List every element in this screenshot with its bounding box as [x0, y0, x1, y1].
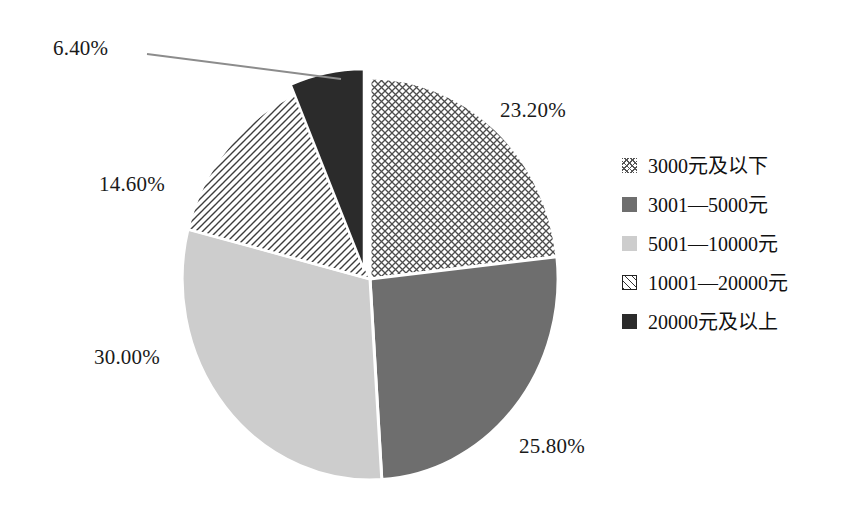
- pie-value-label-10001-20000: 14.60%: [99, 172, 165, 197]
- pie-value-label-3001-5000: 25.80%: [519, 434, 585, 459]
- pie-value-label-5001-10000: 30.00%: [94, 345, 160, 370]
- pie-value-label-3000-and-below: 23.20%: [500, 98, 566, 123]
- legend-item-5001-10000[interactable]: 5001—10000元: [622, 224, 837, 263]
- legend-item-10001-20000[interactable]: 10001—20000元: [622, 263, 837, 302]
- pie-value-label-20000-and-above: 6.40%: [53, 36, 108, 61]
- legend-label: 5001—10000元: [648, 234, 778, 254]
- diagonal-stripe-swatch-icon: [622, 275, 637, 290]
- legend-label: 3001—5000元: [648, 195, 768, 215]
- crosshatch-swatch-icon: [622, 158, 637, 173]
- dark-gray-swatch-icon: [622, 197, 637, 212]
- chart-legend: 3000元及以下 3001—5000元 5001—10000元 10001—20…: [622, 146, 837, 341]
- legend-item-20000-and-above[interactable]: 20000元及以上: [622, 302, 837, 341]
- legend-label: 10001—20000元: [648, 273, 788, 293]
- light-gray-swatch-icon: [622, 236, 637, 251]
- legend-item-3001-5000[interactable]: 3001—5000元: [622, 185, 837, 224]
- black-swatch-icon: [622, 314, 637, 329]
- pie-chart: 23.20% 25.80% 30.00% 14.60% 6.40% 3000元及…: [0, 0, 844, 510]
- legend-label: 3000元及以下: [648, 156, 768, 176]
- leader-line-20000-and-above: [147, 54, 341, 79]
- legend-item-3000-and-below[interactable]: 3000元及以下: [622, 146, 837, 185]
- legend-label: 20000元及以上: [648, 312, 778, 332]
